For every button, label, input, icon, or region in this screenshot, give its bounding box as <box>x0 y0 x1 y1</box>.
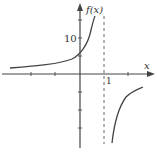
function-graph: f(x) x 10 1 <box>0 0 157 153</box>
x-axis-arrow-icon <box>147 71 155 77</box>
x-axis-label: x <box>144 60 150 71</box>
curve-right-branch <box>112 87 143 143</box>
y-tick-label-10: 10 <box>64 33 77 44</box>
x-tick-label-1: 1 <box>106 76 112 86</box>
y-axis-label: f(x) <box>85 4 103 15</box>
y-axis-arrow-icon <box>77 3 83 11</box>
curve-left-branch <box>10 16 95 68</box>
